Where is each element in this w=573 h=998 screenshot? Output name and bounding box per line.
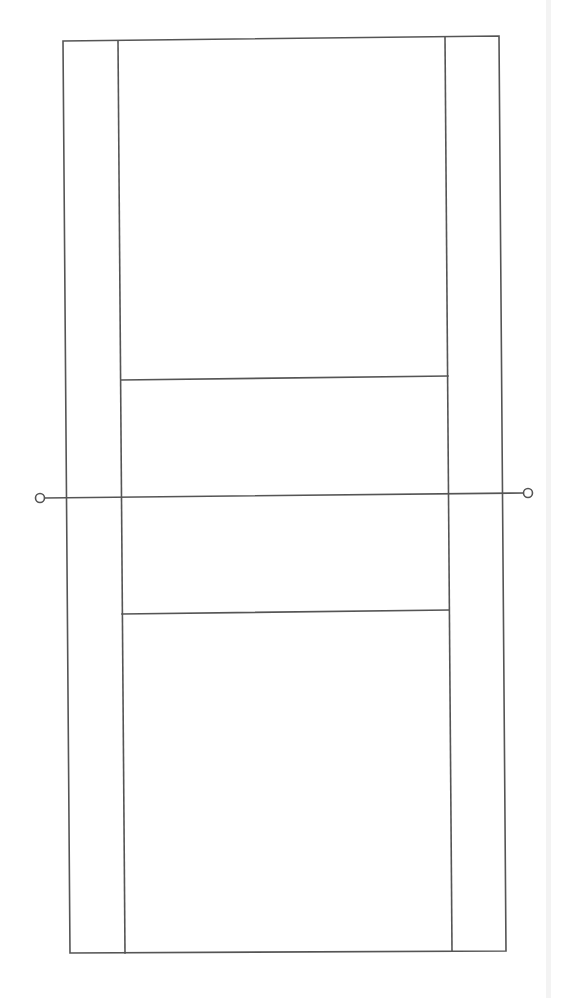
net-post-left <box>36 494 45 503</box>
upper-service-line <box>121 376 448 380</box>
lower-service-line <box>122 610 449 614</box>
net-post-right <box>524 489 533 498</box>
court-diagram <box>0 0 573 998</box>
net-line <box>44 493 524 498</box>
